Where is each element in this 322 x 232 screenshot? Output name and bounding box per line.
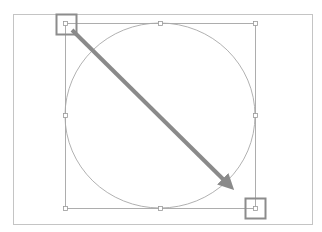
anchor-point-top-right[interactable]	[254, 22, 258, 26]
anchor-point-bottom-right[interactable]	[254, 207, 258, 211]
anchor-point-bottom-center[interactable]	[159, 207, 163, 211]
anchor-point-middle-left[interactable]	[64, 114, 68, 118]
drawing-canvas[interactable]	[0, 0, 322, 232]
drag-arrow-icon	[72, 30, 229, 185]
anchor-point-bottom-left[interactable]	[64, 207, 68, 211]
anchor-point-top-left[interactable]	[64, 22, 68, 26]
anchor-point-top-center[interactable]	[159, 22, 163, 26]
anchor-point-middle-right[interactable]	[254, 114, 258, 118]
